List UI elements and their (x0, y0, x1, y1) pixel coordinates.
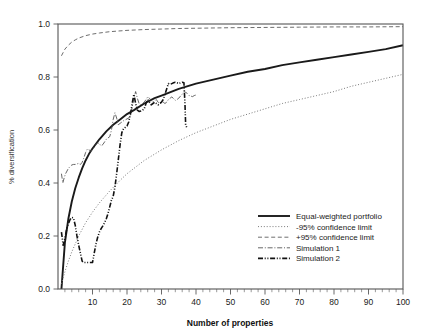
axis-tick-labels: 1020304050607080901000.00.20.40.60.81.0 (38, 19, 410, 307)
legend-label-3: +95% confidence limit (296, 233, 375, 242)
y-tick-label: 0.2 (38, 231, 50, 241)
plot-frame (58, 24, 403, 289)
y-tick-label: 1.0 (38, 19, 50, 29)
legend-label-2: -95% confidence limit (296, 223, 373, 232)
legend-label-4: Simulation 1 (296, 244, 341, 253)
chart-legend: Equal-weighted portfolio-95% confidence … (258, 212, 382, 263)
axis-ticks (54, 24, 404, 295)
x-tick-label: 100 (396, 297, 410, 307)
y-axis-title: % diversification (7, 130, 16, 184)
x-axis-title: Number of properties (187, 318, 274, 328)
diversification-line-chart: 1020304050607080901000.00.20.40.60.81.0 … (0, 0, 423, 335)
x-tick-label: 20 (122, 297, 132, 307)
x-tick-label: 50 (226, 297, 236, 307)
series-line-1 (61, 45, 403, 289)
x-tick-label: 90 (364, 297, 374, 307)
legend-label-5: Simulation 2 (296, 254, 341, 263)
series-line-3 (61, 27, 403, 56)
series-line-2 (61, 74, 403, 283)
y-tick-label: 0.8 (38, 72, 50, 82)
x-tick-label: 70 (295, 297, 305, 307)
x-tick-label: 30 (157, 297, 167, 307)
chart-figure: 1020304050607080901000.00.20.40.60.81.0 … (0, 0, 423, 335)
x-tick-label: 40 (191, 297, 201, 307)
y-tick-label: 0.0 (38, 284, 50, 294)
y-tick-label: 0.6 (38, 125, 50, 135)
data-series-layer (61, 27, 403, 289)
x-tick-label: 80 (329, 297, 339, 307)
x-tick-label: 10 (88, 297, 98, 307)
legend-label-1: Equal-weighted portfolio (296, 212, 382, 221)
x-tick-label: 60 (260, 297, 270, 307)
y-tick-label: 0.4 (38, 178, 50, 188)
